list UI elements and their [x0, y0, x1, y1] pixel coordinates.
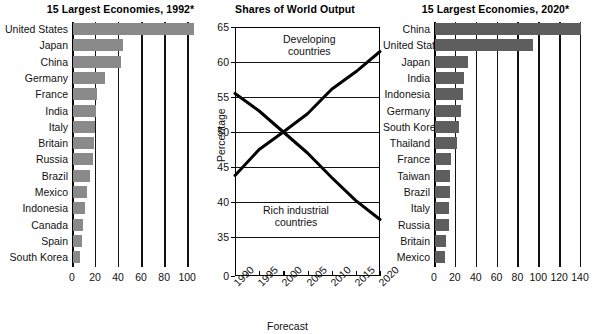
grid-line	[235, 62, 380, 63]
y-tick-mark	[231, 62, 235, 63]
y-tick-label: 45	[203, 161, 229, 173]
bar-category-label: China	[383, 22, 430, 36]
bar-category-label: Canada	[0, 218, 68, 232]
bar-category-label: France	[383, 152, 430, 166]
y-tick-mark	[231, 132, 235, 133]
y-tick-label: 65	[203, 21, 229, 33]
y-tick-mark	[231, 237, 235, 238]
bar	[435, 105, 461, 117]
bar-category-label: United States	[383, 38, 430, 52]
bar	[73, 56, 121, 68]
bar	[73, 72, 105, 84]
y-tick-label: 55	[203, 91, 229, 103]
bar	[73, 186, 87, 198]
grid-line	[235, 97, 380, 98]
bar	[73, 219, 83, 231]
bar	[435, 137, 457, 149]
grid-line	[164, 22, 165, 267]
grid-line	[235, 132, 380, 133]
y-tick-label: 35	[203, 231, 229, 243]
x-tick-label: 100	[173, 271, 201, 283]
bar-category-label: Britain	[0, 136, 68, 150]
panel-economies-1992: 15 Largest Economies, 1992* United State…	[0, 0, 205, 334]
grid-line	[559, 22, 560, 267]
x-tick-label: 140	[566, 271, 594, 283]
bar-category-label: Brazil	[383, 185, 430, 199]
bar	[435, 186, 450, 198]
bar	[73, 202, 85, 214]
bar	[435, 88, 463, 100]
bar	[435, 153, 451, 165]
y-tick-label: 50	[203, 126, 229, 138]
bar-category-label: Indonesia	[383, 87, 430, 101]
panel-economies-2020: 15 Largest Economies, 2020* ChinaUnited …	[385, 0, 594, 334]
bar-category-label: Mexico	[383, 250, 430, 264]
bar-category-label: France	[0, 87, 68, 101]
grid-line	[235, 237, 380, 238]
bar	[435, 170, 450, 182]
bar-category-label: Germany	[0, 71, 68, 85]
grid-line	[235, 202, 380, 203]
bar	[435, 219, 449, 231]
bar-category-label: Italy	[383, 201, 430, 215]
bar	[73, 251, 80, 263]
bar-category-label: Spain	[0, 234, 68, 248]
bar-category-label: Russia	[0, 152, 68, 166]
grid-line	[497, 22, 498, 267]
grid-line	[538, 22, 539, 267]
bar	[435, 39, 533, 51]
bar-category-label: Russia	[383, 218, 430, 232]
bar	[435, 23, 581, 35]
bar-category-label: Indonesia	[0, 201, 68, 215]
y-tick-mark	[231, 202, 235, 203]
grid-line	[141, 22, 142, 267]
bar-category-label: Britain	[383, 234, 430, 248]
bar	[73, 105, 96, 117]
bar-category-label: Thailand	[383, 136, 430, 150]
bar	[73, 137, 94, 149]
bar	[73, 170, 90, 182]
y-tick-label: 60	[203, 56, 229, 68]
bar	[73, 121, 95, 133]
grid-line	[235, 167, 380, 168]
grid-line	[517, 22, 518, 267]
bar-category-label: India	[0, 104, 68, 118]
bar-category-label: United States	[0, 22, 68, 36]
grid-line	[580, 22, 581, 267]
y-tick-mark	[231, 97, 235, 98]
y-tick-label: 40	[203, 196, 229, 208]
bar-category-label: Germany	[383, 104, 430, 118]
bar-category-label: Japan	[0, 38, 68, 52]
bar	[73, 23, 194, 35]
bar-category-label: Italy	[0, 120, 68, 134]
bar-category-label: Mexico	[0, 185, 68, 199]
bar-category-label: South Korea	[383, 120, 430, 134]
bar	[73, 39, 123, 51]
bar	[73, 153, 93, 165]
grid-line	[187, 22, 188, 267]
bar-category-label: India	[383, 71, 430, 85]
bar	[435, 251, 445, 263]
bar-category-label: Brazil	[0, 169, 68, 183]
bar-category-label: South Korea	[0, 250, 68, 264]
bar-category-label: Japan	[383, 55, 430, 69]
panel-shares-of-world-output: Shares of World Output Percentage Foreca…	[205, 0, 385, 334]
bar	[73, 235, 82, 247]
bar	[435, 121, 459, 133]
bar	[435, 235, 446, 247]
bar-chart-2020: ChinaUnited StatesJapanIndiaIndonesiaGer…	[385, 0, 594, 334]
grid-line	[476, 22, 477, 267]
line-series-developing-countries	[235, 52, 380, 176]
y-tick-mark	[231, 167, 235, 168]
bar-chart-1992: United StatesJapanChinaGermanyFranceIndi…	[0, 0, 205, 334]
line-chart-shares: Percentage Forecast Developing countries…	[205, 0, 385, 334]
bar	[73, 88, 97, 100]
y-tick-mark	[231, 27, 235, 28]
y-tick-label: 0	[203, 270, 229, 282]
bar	[435, 72, 464, 84]
bar	[435, 56, 468, 68]
figure-three-panel-chart: 15 Largest Economies, 1992* United State…	[0, 0, 594, 334]
bar	[435, 202, 449, 214]
bar-category-label: China	[0, 55, 68, 69]
bar-category-label: Taiwan	[383, 169, 430, 183]
